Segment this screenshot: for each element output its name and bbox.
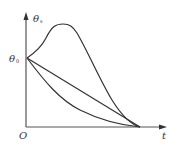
start-label: θ [9,53,15,64]
origin-label: O [19,130,27,141]
y-axis-arrow-icon [24,12,29,20]
start-label-sub: 0 [16,58,19,64]
x-axis-arrow-icon [159,125,167,130]
y-axis-label-sub: s [40,18,43,24]
y-axis-label: θ [33,13,39,24]
linear-curve [27,58,140,127]
theta-t-diagram: θ s θ 0 O t [0,0,179,147]
x-axis-label: t [162,130,167,141]
